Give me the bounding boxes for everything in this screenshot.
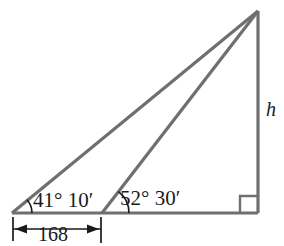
dimension-arrow-left-icon: [15, 225, 27, 234]
hypotenuse-from-left-vertex: [12, 11, 258, 213]
math-figure: 41° 10′ 52° 30′ 168 h: [0, 0, 284, 246]
angle-label-middle: 52° 30′: [120, 188, 180, 209]
right-angle-marker-icon: [240, 196, 257, 213]
base-length-label: 168: [38, 224, 68, 244]
angle-label-left: 41° 10′: [33, 190, 93, 211]
height-label: h: [266, 99, 276, 119]
angle-arc-left-icon: [27, 200, 32, 213]
dimension-arrow-right-icon: [87, 225, 99, 234]
hypotenuse-from-middle-vertex: [102, 11, 258, 213]
